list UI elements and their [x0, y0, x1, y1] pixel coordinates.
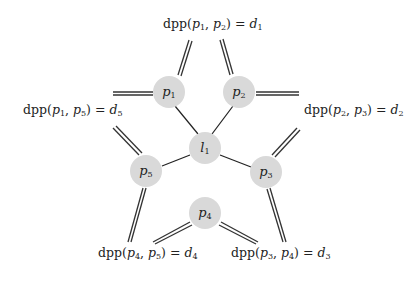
edge-label-d4: dpp(p4, p5) = d4 [98, 245, 198, 261]
node-label-l1: l1 [200, 140, 209, 156]
node-label-p2: p2 [232, 84, 245, 100]
edge-label-d1: dpp(p1, p2) = d1 [163, 16, 263, 32]
node-label-p4: p4 [198, 205, 211, 221]
edge-label-d3: dpp(p3, p4) = d3 [231, 245, 331, 261]
node-label-p3: p3 [259, 164, 272, 180]
edge-label-d5: dpp(p1, p5) = d5 [23, 102, 123, 118]
node-label-p1: p1 [162, 84, 175, 100]
node-label-p5: p5 [139, 163, 152, 179]
edge-label-d2: dpp(p2, p3) = d2 [304, 102, 404, 118]
